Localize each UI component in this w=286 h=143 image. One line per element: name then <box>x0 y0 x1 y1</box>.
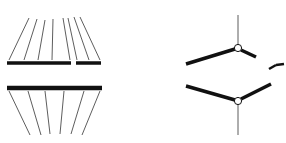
upper-arm-right <box>241 50 256 57</box>
bilayer-panel <box>7 17 102 135</box>
rotation-arrow-icon <box>269 65 276 69</box>
lower-chain-line <box>71 91 84 134</box>
lower-arm-right <box>241 84 271 99</box>
lower-chain-line <box>60 91 64 134</box>
lower-chain-line <box>28 91 41 135</box>
upper-chain-line <box>52 19 53 60</box>
lower-arm-left <box>186 86 235 100</box>
lower-chain-line <box>82 91 100 135</box>
lower-joint-icon <box>234 97 241 104</box>
diagram-canvas <box>0 0 286 143</box>
lower-chain-line <box>45 91 50 134</box>
upper-arm-left <box>186 49 235 64</box>
upper-chain-line <box>74 17 89 60</box>
hinge-molecules-panel <box>186 15 284 135</box>
upper-chain-line <box>38 20 45 60</box>
upper-joint-icon <box>234 44 241 51</box>
lower-chain-line <box>9 91 30 135</box>
diagram-svg <box>0 0 286 143</box>
rotation-arrow-icon <box>276 64 284 65</box>
upper-chain-line <box>80 17 100 60</box>
